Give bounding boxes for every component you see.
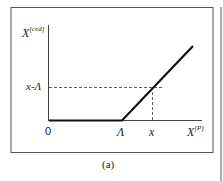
payoff-curve [49, 46, 193, 121]
y-axis-label: X[ced] [22, 27, 45, 39]
x-axis-label: X[P] [187, 126, 204, 138]
y-tick-label: x-Λ [26, 81, 41, 92]
origin-label: 0 [45, 126, 51, 137]
figure-caption: (a) [102, 158, 114, 170]
x-tick-label: x [149, 126, 154, 138]
lambda-tick-label: Λ [117, 126, 124, 138]
